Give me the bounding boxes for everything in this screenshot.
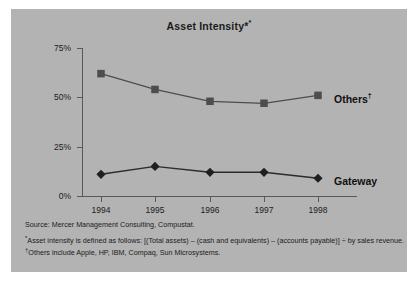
series-markers-others xyxy=(97,70,322,107)
series-label-gateway: Gateway xyxy=(334,175,377,187)
series-plot xyxy=(11,9,407,224)
data-point-gateway-1996 xyxy=(205,168,214,177)
source-line: Source: Mercer Management Consulting, Co… xyxy=(25,220,405,229)
data-point-gateway-1994 xyxy=(96,170,105,179)
data-point-others-1995 xyxy=(151,86,159,94)
data-point-others-1998 xyxy=(314,92,322,100)
footnote-asterisk: *Asset intensity is defined as follows: … xyxy=(25,235,405,246)
footnotes-block: Source: Mercer Management Consulting, Co… xyxy=(25,220,405,259)
series-markers-gateway xyxy=(96,162,322,183)
data-point-gateway-1997 xyxy=(259,168,268,177)
data-point-gateway-1998 xyxy=(313,174,322,183)
data-point-others-1997 xyxy=(260,100,268,108)
series-label-others-text: Others xyxy=(334,93,368,105)
chart-figure-panel: Asset Intensity** 75% 50% 25% 0% 1994 19… xyxy=(11,9,407,272)
footnote-dagger: †Others include Apple, HP, IBM, Compaq, … xyxy=(25,247,405,258)
series-label-others-marker: † xyxy=(368,92,372,99)
plot-area: 75% 50% 25% 0% 1994 1995 1996 1997 1998 … xyxy=(11,9,407,224)
data-point-gateway-1995 xyxy=(150,162,159,171)
footnote-asterisk-text: Asset intensity is defined as follows: [… xyxy=(27,236,404,245)
data-point-others-1996 xyxy=(206,98,214,106)
footnote-dagger-text: Others include Apple, HP, IBM, Compaq, S… xyxy=(28,248,220,257)
data-point-others-1994 xyxy=(97,70,105,78)
series-label-gateway-text: Gateway xyxy=(334,175,377,187)
series-label-others: Others† xyxy=(334,92,372,105)
